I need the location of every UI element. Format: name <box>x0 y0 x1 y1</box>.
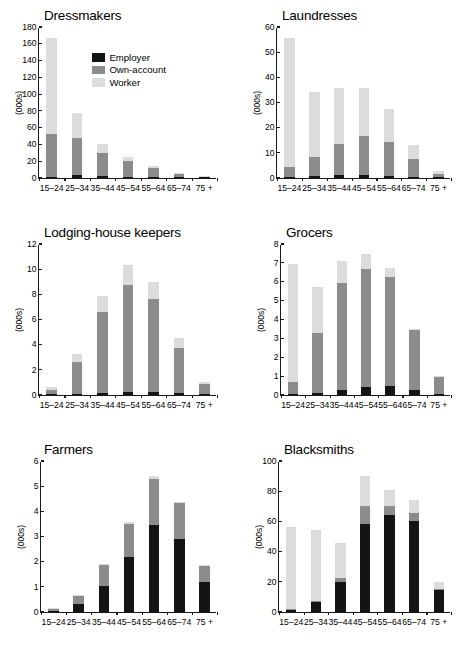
y-axis-tick-label: 4 <box>32 340 39 349</box>
x-axis-tick-mark <box>90 395 91 398</box>
bar-segment-employer <box>384 515 394 612</box>
x-axis-tick-mark <box>378 395 379 398</box>
y-axis-tick-mark <box>41 486 44 487</box>
x-axis-tick-label: 75 + <box>196 617 213 627</box>
bar-segment-employer <box>433 177 443 178</box>
bar-stack <box>335 543 345 612</box>
bar-segment-worker <box>284 38 294 167</box>
bar-segment-own-account <box>149 479 160 526</box>
bar-segment-worker <box>384 109 394 141</box>
bar-segment-worker <box>97 144 108 153</box>
y-axis-tick-mark <box>281 319 284 320</box>
bar-segment-own-account <box>384 506 394 516</box>
bar-segment-own-account <box>174 348 185 393</box>
bar-segment-employer <box>385 386 395 395</box>
bar-segment-employer <box>309 176 319 178</box>
bar-segment-own-account <box>384 142 394 176</box>
bar-segment-own-account <box>123 161 134 177</box>
bar-stack <box>309 92 319 178</box>
bar-segment-employer <box>124 557 135 612</box>
bar-stack <box>337 261 347 395</box>
bar-segment-own-account <box>360 506 370 525</box>
bar-segment-employer <box>46 177 57 178</box>
bar-segment-employer <box>148 177 159 178</box>
bar-stack <box>174 502 185 612</box>
y-axis-tick-label: 0 <box>270 174 277 183</box>
y-axis-label: (000s) <box>254 522 264 552</box>
x-axis-tick-label: 75 + <box>430 400 447 410</box>
bar-segment-employer <box>97 176 108 178</box>
x-axis-tick-label: 15–24 <box>40 400 64 410</box>
bar-segment-own-account <box>284 167 294 177</box>
bar-stack <box>359 88 369 178</box>
x-axis-tick-mark <box>330 395 331 398</box>
x-axis-tick-mark <box>166 178 167 181</box>
y-axis-tick-label: 4 <box>274 315 281 324</box>
bar-segment-own-account <box>46 134 57 177</box>
bar-segment-employer <box>311 602 321 612</box>
bar-segment-worker <box>97 296 108 312</box>
chart-panel-farmers: Farmers(000s)012345615–2425–3435–4445–54… <box>0 434 234 651</box>
bar-segment-employer <box>334 175 344 178</box>
x-axis-tick-mark <box>451 612 452 615</box>
bar-segment-worker <box>384 490 394 506</box>
bar-segment-own-account <box>199 566 210 582</box>
x-axis-tick-label: 15–24 <box>42 617 66 627</box>
x-axis-tick-mark <box>279 612 280 615</box>
bar-stack <box>48 608 59 612</box>
y-axis-tick-mark <box>39 294 42 295</box>
bar-segment-worker <box>334 88 344 143</box>
chart-panel-grocers: Grocers(000s)01234567815–2425–3435–4445–… <box>234 217 468 434</box>
chart-panel-blacksmiths: Blacksmiths(000s)02040608010015–2425–343… <box>234 434 468 651</box>
bar-segment-worker <box>72 113 83 137</box>
y-axis-label: (000s) <box>14 305 24 335</box>
x-axis-tick-label: 65–74 <box>403 400 427 410</box>
y-axis-tick-label: 1 <box>34 583 41 592</box>
panel-title: Farmers <box>44 442 93 457</box>
y-axis-label: (000s) <box>252 88 262 118</box>
x-axis-tick-mark <box>327 178 328 181</box>
bar-stack <box>148 166 159 178</box>
bar-segment-worker <box>148 282 159 298</box>
bar-stack <box>174 173 185 178</box>
x-axis-tick-mark <box>141 395 142 398</box>
panel-title: Dressmakers <box>44 8 121 23</box>
legend-item-employer: Employer <box>92 52 166 63</box>
legend-swatch-employer <box>92 53 105 62</box>
y-axis-tick-label: 30 <box>265 98 277 107</box>
x-axis-tick-label: 35–44 <box>92 617 116 627</box>
bar-stack <box>384 490 394 612</box>
x-axis-tick-label: 65–74 <box>167 183 191 193</box>
x-axis-tick-label: 55–64 <box>141 183 165 193</box>
y-axis-tick-label: 10 <box>265 149 277 158</box>
bar-stack <box>433 171 443 178</box>
bar-segment-own-account <box>123 285 134 391</box>
y-axis-tick-mark <box>39 43 42 44</box>
y-axis-tick-mark <box>39 369 42 370</box>
y-axis-tick-mark <box>277 26 280 27</box>
x-axis-tick-label: 45–54 <box>116 400 140 410</box>
y-axis-tick-label: 0 <box>32 391 39 400</box>
x-axis-tick-mark <box>402 395 403 398</box>
y-axis-tick-label: 7 <box>274 259 281 268</box>
x-axis-tick-label: 25–34 <box>65 183 89 193</box>
y-axis-tick-mark <box>39 344 42 345</box>
y-axis-tick-label: 60 <box>267 517 279 526</box>
bar-segment-employer <box>199 394 210 395</box>
x-axis-tick-mark <box>217 178 218 181</box>
y-axis-tick-label: 20 <box>265 123 277 132</box>
bar-stack <box>311 530 321 612</box>
bar-stack <box>123 157 134 178</box>
chart-panel-dressmakers: Dressmakers(000s)02040608010012014016018… <box>0 0 234 217</box>
bar-segment-own-account <box>124 524 135 556</box>
y-axis-tick-label: 4 <box>34 507 41 516</box>
x-axis-tick-mark <box>376 178 377 181</box>
x-axis-tick-label: 65–74 <box>402 183 426 193</box>
x-axis-tick-label: 55–64 <box>142 617 166 627</box>
y-axis-tick-mark <box>279 460 282 461</box>
x-axis-tick-mark <box>217 395 218 398</box>
y-axis-tick-label: 80 <box>267 487 279 496</box>
y-axis-tick-label: 80 <box>27 107 39 116</box>
legend-swatch-worker <box>92 78 105 87</box>
y-axis-tick-label: 120 <box>22 73 39 82</box>
